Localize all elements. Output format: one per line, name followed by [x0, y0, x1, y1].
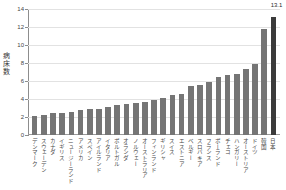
- bar-slot: [205, 9, 214, 135]
- x-axis-tick-label: オーストラリア: [142, 138, 148, 178]
- bar: [216, 77, 222, 136]
- bar-value-label: 13.1: [271, 2, 283, 8]
- x-axis-tick-label: ポルトガル: [114, 138, 120, 167]
- y-axis-tick-label: 6: [2, 78, 24, 84]
- x-label-slot: スロバキア: [195, 138, 204, 190]
- x-label-slot: オランダ: [122, 138, 131, 190]
- y-axis-tick-label: 12: [2, 24, 24, 30]
- bar: [142, 102, 148, 135]
- x-label-slot: イタリア: [104, 138, 113, 190]
- y-axis-tick-label: 8: [2, 60, 24, 66]
- x-label-slot: ノルウェー: [131, 138, 140, 190]
- bar: [69, 112, 75, 135]
- bar: [234, 74, 240, 135]
- x-label-slot: カナダ: [48, 138, 57, 190]
- bar: [252, 64, 258, 135]
- bar-slot: [251, 9, 260, 135]
- bar: [105, 107, 111, 135]
- bar: [225, 75, 231, 135]
- y-axis-tick-labels: 02468101214: [0, 0, 24, 190]
- bar: [179, 94, 185, 135]
- bar: 13.1: [271, 17, 277, 135]
- bar: [96, 109, 102, 135]
- x-label-slot: オーストラリア: [140, 138, 149, 190]
- x-label-slot: ドイツ: [251, 138, 260, 190]
- x-axis-tick-label: イギリス: [59, 138, 65, 161]
- bar-slot: [76, 9, 85, 135]
- bar-slot: [113, 9, 122, 135]
- bar: [151, 100, 157, 135]
- bar-slot: [159, 9, 168, 135]
- x-axis-tick-labels: デンマークスウェーデンカナダイギリスニュージーランドアメリカスペインアイルランド…: [28, 138, 280, 190]
- bar-slot: [223, 9, 232, 135]
- bar-slot: 13.1: [269, 9, 278, 135]
- x-axis-tick-label: アメリカ: [78, 138, 84, 161]
- bar: [32, 116, 38, 135]
- x-axis-tick-label: 日本: [270, 138, 276, 149]
- x-label-slot: ポーランド: [214, 138, 223, 190]
- bar-slot: [58, 9, 67, 135]
- bar-slot: [85, 9, 94, 135]
- bar: [78, 110, 84, 135]
- x-axis-tick-label: オーストリア: [243, 138, 249, 172]
- bar-slot: [177, 9, 186, 135]
- x-axis-tick-label: ギリシャ: [160, 138, 166, 161]
- bar: [160, 98, 166, 135]
- bar-slot: [149, 9, 158, 135]
- bar-slot: [67, 9, 76, 135]
- x-axis-tick-label: スペイン: [87, 138, 93, 161]
- x-label-slot: ギリシャ: [159, 138, 168, 190]
- x-label-slot: フィンランド: [149, 138, 158, 190]
- x-label-slot: ハンガリー: [232, 138, 241, 190]
- x-label-slot: スイス: [168, 138, 177, 190]
- x-label-slot: イギリス: [58, 138, 67, 190]
- bar-slot: [260, 9, 269, 135]
- x-axis-tick-label: チェコ: [225, 138, 231, 155]
- x-axis-tick-label: フランス: [206, 138, 212, 161]
- x-label-slot: フランス: [205, 138, 214, 190]
- x-label-slot: 韓国: [260, 138, 269, 190]
- y-axis-tick-label: 2: [2, 114, 24, 120]
- x-axis-tick-label: オランダ: [123, 138, 129, 161]
- bar-slot: [131, 9, 140, 135]
- y-axis-tick-label: 4: [2, 96, 24, 102]
- x-axis-tick-label: フィンランド: [151, 138, 157, 172]
- bar: [59, 113, 65, 136]
- bar: [243, 69, 249, 135]
- x-label-slot: エストニア: [177, 138, 186, 190]
- x-axis-tick-label: スイス: [169, 138, 175, 155]
- bar-slot: [30, 9, 39, 135]
- bar: [206, 82, 212, 135]
- x-axis-tick-label: デンマーク: [32, 138, 38, 167]
- bar: [41, 115, 47, 135]
- x-label-slot: ニュージーランド: [67, 138, 76, 190]
- x-axis-tick-label: 韓国: [261, 138, 267, 149]
- bar-slot: [186, 9, 195, 135]
- x-axis-tick-label: ニュージーランド: [68, 138, 74, 184]
- x-axis-tick-label: ポーランド: [215, 138, 221, 167]
- bar-slot: [241, 9, 250, 135]
- x-label-slot: デンマーク: [30, 138, 39, 190]
- x-label-slot: ベルギー: [186, 138, 195, 190]
- x-axis-tick-label: ベルギー: [188, 138, 194, 161]
- bar-chart: 病床数 02468101214 13.1 デンマークスウェーデンカナダイギリスニ…: [0, 0, 286, 190]
- bar-slot: [122, 9, 131, 135]
- bar: [114, 105, 120, 135]
- x-axis-tick-label: エストニア: [179, 138, 185, 167]
- chart-title: [96, 0, 216, 5]
- bar: [87, 109, 93, 135]
- bar-slot: [94, 9, 103, 135]
- bar: [124, 104, 130, 136]
- x-axis-tick-label: アイルランド: [96, 138, 102, 172]
- x-axis-tick-label: ドイツ: [252, 138, 258, 155]
- x-label-slot: スウェーデン: [39, 138, 48, 190]
- bar: [133, 103, 139, 135]
- x-axis-tick-label: イタリア: [105, 138, 111, 161]
- x-axis-tick-label: カナダ: [50, 138, 56, 155]
- bar-slot: [140, 9, 149, 135]
- bar-slot: [195, 9, 204, 135]
- x-label-slot: 日本: [269, 138, 278, 190]
- x-axis-tick-label: スロバキア: [197, 138, 203, 167]
- bar: [188, 86, 194, 136]
- bar-slot: [104, 9, 113, 135]
